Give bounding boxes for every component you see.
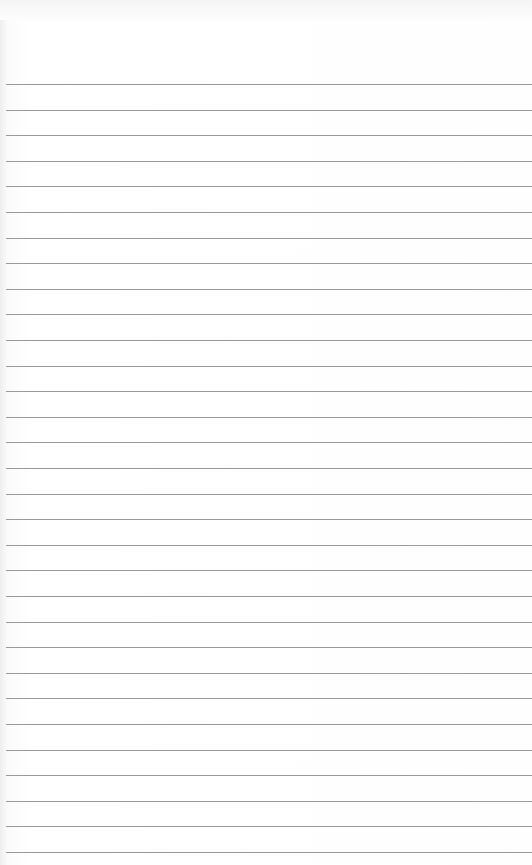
ruled-line — [6, 468, 532, 469]
ruled-line — [6, 647, 532, 648]
ruled-line — [6, 673, 532, 674]
ruled-line — [6, 417, 532, 418]
ruled-line — [6, 596, 532, 597]
ruled-line — [6, 442, 532, 443]
lined-paper — [0, 0, 532, 865]
ruled-line — [6, 263, 532, 264]
ruled-line — [6, 340, 532, 341]
ruled-line — [6, 698, 532, 699]
ruled-line — [6, 545, 532, 546]
ruled-line — [6, 212, 532, 213]
ruled-line — [6, 775, 532, 776]
ruled-line — [6, 750, 532, 751]
ruled-line — [6, 852, 532, 853]
ruled-line — [6, 570, 532, 571]
ruled-line — [6, 494, 532, 495]
ruled-line — [6, 84, 532, 85]
ruled-line — [6, 826, 532, 827]
ruled-line — [6, 135, 532, 136]
top-margin — [0, 0, 532, 20]
ruled-line — [6, 238, 532, 239]
ruled-line — [6, 110, 532, 111]
ruled-line — [6, 366, 532, 367]
ruled-line — [6, 186, 532, 187]
ruled-line — [6, 161, 532, 162]
ruled-line — [6, 724, 532, 725]
ruled-line — [6, 289, 532, 290]
ruled-line — [6, 622, 532, 623]
ruled-line — [6, 391, 532, 392]
ruled-line — [6, 519, 532, 520]
ruled-line — [6, 801, 532, 802]
ruled-line — [6, 314, 532, 315]
